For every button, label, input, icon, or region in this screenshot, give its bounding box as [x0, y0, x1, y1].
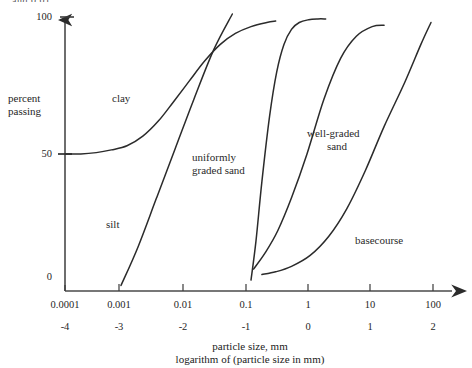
curve-label-basecourse: basecourse: [355, 234, 403, 247]
x-log-tick-0: 0: [276, 320, 340, 333]
y-tick-50: 50: [6, 147, 52, 160]
x-tick-0.001: 0.001: [87, 298, 151, 311]
x-log-tick--2: -2: [151, 320, 215, 333]
x-tick-0.01: 0.01: [151, 298, 215, 311]
curve-silt: [121, 14, 232, 286]
x-axis: [65, 284, 452, 291]
curve-label-well-graded-line1: well-graded: [307, 127, 360, 140]
curve-label-silt: silt: [106, 218, 119, 231]
x-tick-1: 1: [276, 298, 340, 311]
curve-label-uniform-sand-line2: graded sand: [192, 164, 245, 177]
grain-size-distribution-figure: and 0.01 100: [0, 0, 472, 368]
curve-clay: [65, 21, 276, 154]
y-axis-label-line1: percent: [8, 92, 40, 105]
y-tick-0: 0: [6, 270, 52, 283]
x-log-tick--1: -1: [214, 320, 278, 333]
x-axis-title-line1: particle size, mm: [150, 340, 350, 353]
y-axis-label-line2: passing: [8, 105, 41, 118]
x-tick-100: 100: [401, 298, 465, 311]
y-tick-100: 100: [6, 10, 52, 23]
x-axis-title-line2: logarithm of (particle size in mm): [130, 353, 370, 366]
x-log-tick--3: -3: [87, 320, 151, 333]
x-tick-0.1: 0.1: [214, 298, 278, 311]
curve-label-clay: clay: [112, 92, 130, 105]
plot-area: [0, 0, 472, 368]
x-log-tick-1: 1: [338, 320, 402, 333]
x-log-tick-2: 2: [401, 320, 465, 333]
x-tick-10: 10: [338, 298, 402, 311]
curve-label-well-graded-line2: sand: [307, 140, 367, 153]
curve-label-uniform-sand-line1: uniformly: [192, 151, 236, 164]
